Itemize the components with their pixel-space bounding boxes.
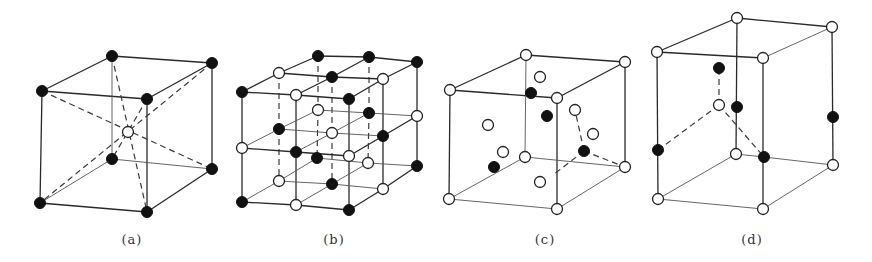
panel-label-d: (d) — [741, 232, 762, 247]
black-atom — [107, 51, 118, 62]
lattice-bond — [449, 199, 557, 209]
lattice-bond — [368, 113, 369, 163]
black-atom — [37, 86, 48, 97]
white-atom — [535, 177, 546, 188]
panel-label-c: (c) — [535, 232, 555, 247]
lattice-bond — [383, 166, 417, 189]
lattice-bond — [369, 57, 417, 62]
white-atom — [291, 200, 302, 211]
lattice-bond — [332, 77, 383, 79]
white-atom — [520, 152, 531, 163]
lattice-bond — [332, 184, 383, 189]
lattice-bond — [657, 52, 763, 58]
black-atom — [274, 124, 285, 135]
lattice-bond — [832, 27, 833, 165]
black-atom — [35, 198, 46, 209]
white-atom — [552, 204, 563, 215]
lattice-bond — [279, 110, 318, 129]
lattice-bond — [318, 56, 369, 57]
crystal-lattices-svg — [0, 0, 872, 262]
white-atom — [483, 120, 494, 131]
black-atom — [327, 179, 338, 190]
black-atom — [412, 57, 423, 68]
white-atom — [552, 93, 563, 104]
white-atom — [652, 47, 663, 58]
white-atom — [653, 194, 664, 205]
white-atom — [444, 194, 455, 205]
lattice-bond — [147, 63, 212, 99]
lattice-bond — [719, 105, 764, 157]
white-atom — [828, 160, 839, 171]
lattice-bond — [657, 52, 658, 199]
lattice-bond — [296, 95, 349, 99]
lattice-bond — [40, 203, 147, 212]
black-atom — [327, 72, 338, 83]
lattice-bond — [526, 55, 625, 62]
white-atom — [445, 85, 456, 96]
lattice-bond — [42, 56, 112, 91]
lattice-bond — [736, 18, 737, 154]
panel-c — [444, 50, 631, 215]
lattice-bond — [40, 159, 112, 203]
lattice-bond — [242, 92, 296, 95]
panel-d — [652, 13, 839, 215]
black-atom — [364, 52, 375, 63]
crystal-structure-figure: (a) (b) (c) (d) — [0, 0, 872, 262]
black-atom — [142, 207, 153, 218]
lattice-bond — [296, 205, 349, 210]
black-atom — [732, 102, 743, 113]
panel-b — [237, 51, 423, 216]
lattice-bond — [450, 55, 526, 90]
white-atom — [758, 53, 769, 64]
panel-label-b: (b) — [323, 232, 344, 247]
white-atom — [313, 105, 324, 116]
white-atom — [588, 129, 599, 140]
white-atom — [714, 100, 725, 111]
lattice-bond — [242, 202, 296, 205]
white-atom — [521, 50, 532, 61]
black-atom — [107, 154, 118, 165]
white-atom — [363, 158, 374, 169]
white-atom — [123, 127, 134, 138]
white-atom — [731, 149, 742, 160]
white-atom — [827, 22, 838, 33]
lattice-bond — [658, 154, 736, 199]
lattice-bond — [242, 129, 279, 148]
lattice-bond — [242, 148, 296, 152]
lattice-bond — [449, 90, 450, 199]
lattice-bond — [279, 158, 317, 181]
lattice-bond — [242, 73, 279, 92]
white-atom — [327, 128, 338, 139]
lattice-bond — [147, 169, 212, 212]
black-atom — [344, 205, 355, 216]
white-atom — [758, 204, 769, 215]
black-atom — [207, 164, 218, 175]
lattice-bond — [332, 57, 369, 77]
lattice-bond — [112, 159, 212, 169]
lattice-bond — [657, 18, 737, 52]
black-atom — [828, 112, 839, 123]
lattice-bond — [42, 91, 147, 99]
black-atom — [312, 153, 323, 164]
lattice-bond — [40, 91, 42, 203]
lattice-bond — [296, 184, 332, 205]
lattice-bond — [317, 110, 318, 158]
lattice-bond — [369, 113, 417, 116]
lattice-bond — [763, 165, 833, 209]
lattice-bond — [279, 129, 332, 133]
black-atom — [237, 87, 248, 98]
black-atom — [759, 152, 770, 163]
lattice-bond — [318, 110, 369, 113]
lattice-bond — [279, 181, 332, 184]
lattice-bond — [332, 133, 383, 136]
black-atom — [579, 146, 590, 157]
black-atom — [364, 108, 375, 119]
white-atom — [274, 68, 285, 79]
black-atom — [237, 197, 248, 208]
lattice-bond — [368, 163, 417, 166]
lattice-bond — [242, 181, 279, 202]
lattice-bond — [557, 62, 625, 98]
lattice-bond — [737, 18, 832, 27]
lattice-bond — [332, 113, 369, 133]
white-atom — [378, 184, 389, 195]
